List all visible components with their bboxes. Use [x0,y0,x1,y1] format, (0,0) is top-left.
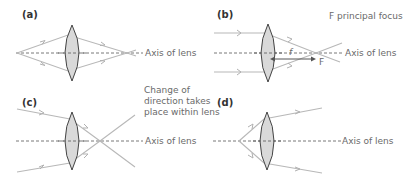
panel-b: (b) F principal focus f F Axis of lens [214,9,403,82]
panel-c-lens [65,112,79,170]
arrow-right-icon [311,57,316,62]
arrow-icon [83,124,88,128]
panel-b-annotation: F principal focus [329,11,403,21]
arrow-icon [100,42,105,46]
arrow-icon [100,61,105,65]
panel-c-annotation-line-2: direction takes [144,96,211,106]
arrow-icon [83,154,88,158]
panel-c-annotation-line-3: place within lens [144,107,220,117]
panel-b-focal-length-label: f [289,47,294,57]
panel-b-axis-label: Axis of lens [345,48,397,58]
panel-c-axis-label: Axis of lens [145,136,197,146]
panel-d: (d) Axis of lens [213,97,394,173]
arrow-icon [248,153,253,158]
panel-d-label: (d) [217,97,233,108]
panel-d-axis-label: Axis of lens [342,136,394,146]
panel-a-label: (a) [22,9,38,20]
arrow-icon [287,37,292,42]
arrow-icon [248,124,253,129]
panel-a: (a) Axis of lens [16,9,197,81]
panel-c-label: (c) [22,97,37,108]
panel-c-annotation-line-1: Change of [144,85,191,95]
panel-c: (c) Change of direction takes place with… [16,85,220,172]
arrow-icon [295,110,300,114]
lens-diagram: (a) Axis of lens (b) F principal focus f… [0,0,403,180]
panel-b-focus-label: F [319,57,324,67]
panel-b-label: (b) [217,9,233,20]
panel-a-lens [65,25,79,81]
panel-a-axis-label: Axis of lens [145,48,197,58]
